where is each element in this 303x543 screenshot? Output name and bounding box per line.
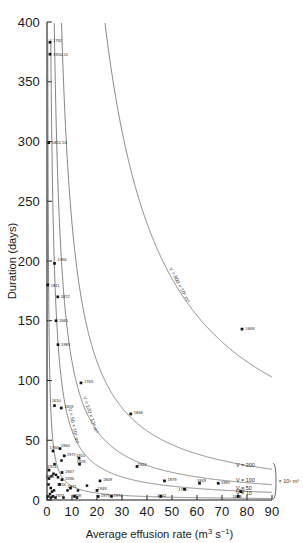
- y-tick-label: 350: [18, 74, 40, 89]
- x-tick-label: 40: [140, 504, 155, 519]
- data-point: [47, 483, 50, 486]
- data-point-label: 1879: [168, 477, 178, 482]
- data-point-label: 1766: [50, 445, 60, 450]
- v-label-200: V = 200: [236, 462, 255, 468]
- data-point-label: 1947: [65, 469, 75, 474]
- x-tick-label: 70: [215, 504, 230, 519]
- data-point: [53, 262, 56, 265]
- data-point-label: 1780: [178, 487, 188, 492]
- data-point: [66, 489, 69, 492]
- iso-volume-curves: [48, 23, 272, 498]
- data-point: [56, 296, 59, 299]
- data-point-label: 1766: [58, 257, 68, 262]
- data-point: [80, 382, 83, 385]
- data-point-label: 1991: [221, 480, 231, 485]
- curve-annotations: V = 800 × 10⁶ m³V = 100 × 10⁶ m³V = 50 ×…: [67, 266, 299, 499]
- data-point-label: 1974: [114, 493, 124, 498]
- x-tick-label: 60: [190, 504, 205, 519]
- data-point: [50, 496, 53, 499]
- data-point: [241, 328, 244, 331]
- units-annotation: × 10⁶ m³: [279, 478, 300, 484]
- data-point-label: 1942: [157, 493, 167, 498]
- data-point: [60, 459, 63, 462]
- x-tick-label: 80: [240, 504, 255, 519]
- iso-volume-curve-10: [48, 39, 272, 498]
- curve-label-v100: V = 100 × 10⁶ m³: [82, 395, 100, 434]
- data-point-label: 1971: [68, 484, 78, 489]
- data-point-label: 1949: [98, 486, 108, 491]
- iso-volume-curve-50: [51, 39, 272, 492]
- iso-volume-curve-800: [105, 23, 272, 377]
- y-axis-title: Duration (days): [6, 222, 18, 299]
- axis-lines: [47, 22, 272, 500]
- data-point-label: 1809: [103, 477, 113, 482]
- y-tick-label: 200: [18, 254, 40, 269]
- data-point: [48, 469, 51, 472]
- curve-label-v50: V = 50 × 10⁶ m³: [67, 407, 81, 444]
- data-point: [61, 471, 64, 474]
- y-tick-label: 0: [33, 493, 40, 508]
- data-point: [97, 495, 100, 498]
- data-point: [50, 487, 53, 490]
- data-point-label: 1872: [61, 294, 71, 299]
- data-point-label: 1910: [76, 453, 86, 458]
- data-point: [55, 319, 58, 322]
- data-point: [77, 489, 80, 492]
- data-point: [46, 284, 49, 287]
- data-point: [53, 404, 56, 407]
- data-point: [163, 480, 166, 483]
- data-point: [47, 495, 50, 498]
- data-point-label: 1979: [101, 493, 111, 498]
- data-point-label: 1936: [65, 476, 75, 481]
- data-point-label: 1792: [53, 38, 63, 43]
- data-point-label: 1974: [48, 464, 58, 469]
- data-point: [53, 489, 56, 492]
- x-tick-label: 10: [65, 504, 80, 519]
- y-tick-label: 150: [18, 313, 40, 328]
- data-point: [57, 343, 60, 346]
- x-tick-label: 20: [90, 504, 105, 519]
- data-point-label: 1908: [72, 493, 82, 498]
- iso-volume-curve-200: [62, 23, 273, 469]
- x-tick-label: 50: [165, 504, 180, 519]
- data-point-label: 1846: [134, 410, 144, 415]
- data-point-label: 1669: [246, 326, 256, 331]
- data-point: [86, 484, 89, 487]
- data-point: [129, 413, 132, 416]
- data-point: [49, 53, 52, 56]
- data-point-label: 1983: [61, 342, 71, 347]
- data-point-label: 1763: [84, 379, 94, 384]
- data-point: [99, 480, 102, 483]
- data-point-label: 1960: [61, 443, 71, 448]
- y-tick-label: 300: [18, 134, 40, 149]
- v-label-100: V = 100: [236, 477, 255, 483]
- y-tick-label: 100: [18, 373, 40, 388]
- data-point: [110, 495, 113, 498]
- data-point: [55, 474, 58, 477]
- data-point-label: 1928: [77, 459, 87, 464]
- x-tick-label: 0: [43, 504, 50, 519]
- data-point: [49, 41, 52, 44]
- data-point-label: 1874: [55, 493, 65, 498]
- data-point-label: 1934: [57, 482, 67, 487]
- iso-volume-curve-100: [54, 23, 272, 485]
- data-point: [57, 476, 60, 479]
- axes: 0501001502002503003504000102030405060708…: [18, 15, 280, 519]
- data-point-label: 1923: [138, 462, 148, 467]
- x-tick-label: 90: [265, 504, 280, 519]
- data-point-label: 1811: [51, 283, 61, 288]
- data-point-label: 1950-51: [53, 52, 69, 57]
- y-tick-label: 400: [18, 15, 40, 30]
- x-axis-title: Average effusion rate (m3 s−1): [86, 527, 234, 540]
- duration-vs-effusion-rate-chart: 0501001502002503003504000102030405060708…: [0, 0, 303, 543]
- data-point: [217, 482, 220, 485]
- data-point: [47, 141, 50, 144]
- data-point: [60, 407, 63, 410]
- data-point: [52, 450, 55, 453]
- data-point: [59, 447, 62, 450]
- data-point: [61, 478, 64, 481]
- data-point-label: 1849: [197, 478, 207, 483]
- data-point: [63, 454, 66, 457]
- data-point: [52, 495, 55, 498]
- units-brace: [273, 463, 276, 499]
